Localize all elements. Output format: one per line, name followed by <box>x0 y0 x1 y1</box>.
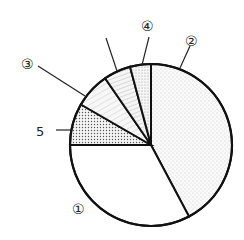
label-slice-1: ① <box>72 201 85 217</box>
label-slice-2: ② <box>185 33 198 49</box>
leader-line-3 <box>38 66 85 96</box>
leader-line-unlabeled <box>106 38 117 71</box>
pie-chart: ③ ④ ② 5 ① <box>0 0 244 240</box>
label-slice-5: 5 <box>36 124 44 139</box>
label-slice-3: ③ <box>21 56 34 72</box>
label-slice-4: ④ <box>141 18 154 34</box>
leader-line-4 <box>142 37 149 65</box>
leader-line-2 <box>180 46 190 68</box>
